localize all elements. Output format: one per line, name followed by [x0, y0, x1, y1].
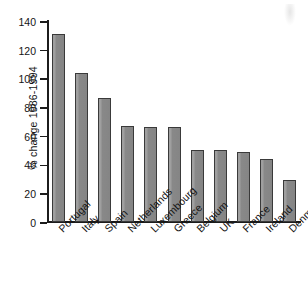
y-axis-tick: 60 — [40, 136, 47, 138]
y-axis-tick-label: 100 — [18, 73, 36, 85]
bar-chart: % change 1986-1994 140120100806040200 Po… — [0, 0, 308, 301]
y-axis-tick: 80 — [40, 107, 47, 109]
y-axis-tick: 140 — [40, 21, 47, 23]
y-axis-tick: 0 — [40, 222, 47, 224]
y-axis-title: % change 1986-1994 — [27, 33, 39, 203]
y-axis-tick: 20 — [40, 193, 47, 195]
y-axis-tick-label: 40 — [24, 159, 36, 171]
plot-area: 140120100806040200 — [47, 21, 301, 222]
y-axis-tick-label: 140 — [18, 16, 36, 28]
y-axis-tick-label: 20 — [24, 188, 36, 200]
y-axis-tick-label: 0 — [30, 217, 36, 229]
y-axis-tick: 100 — [40, 78, 47, 80]
bar — [237, 152, 250, 222]
bar — [98, 98, 111, 222]
y-axis-tick-label: 120 — [18, 45, 36, 57]
y-axis-tick-label: 80 — [24, 102, 36, 114]
y-axis-tick: 120 — [40, 50, 47, 52]
y-axis-tick: 40 — [40, 165, 47, 167]
y-axis-tick-label: 60 — [24, 131, 36, 143]
bar — [52, 34, 65, 222]
